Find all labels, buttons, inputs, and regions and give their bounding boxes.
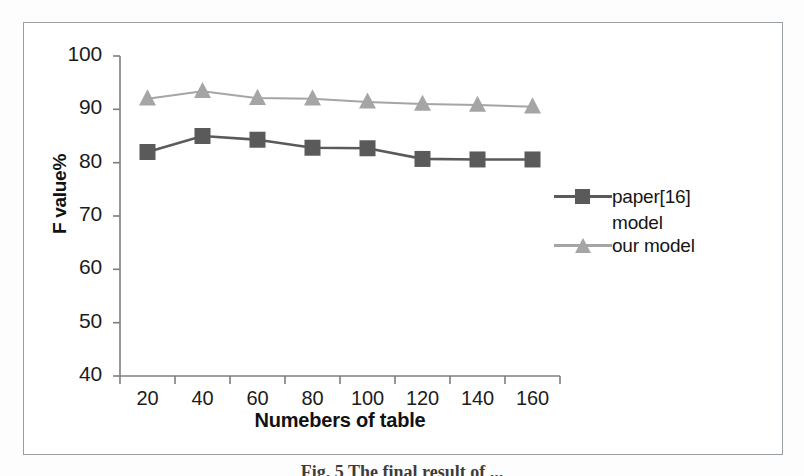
legend-label: paper[16] [612, 185, 691, 208]
data-point-marker [525, 151, 541, 167]
legend-label: our model [612, 234, 695, 257]
figure-caption: Fig. 5 The final result of ... [0, 462, 804, 476]
x-axis-tick-label: 60 [228, 387, 288, 410]
legend-swatch [554, 185, 612, 207]
y-axis-tick-label: 100 [46, 42, 102, 66]
data-point-marker [414, 95, 431, 111]
x-axis-title: Numebers of table [120, 409, 560, 432]
data-point-marker [524, 97, 541, 113]
data-point-marker [305, 140, 321, 156]
data-point-marker [140, 144, 156, 160]
y-axis-tick-label: 60 [46, 255, 102, 279]
figure-frame: F value% 4050607080901002040608010012014… [23, 22, 783, 455]
legend-square-marker-icon [575, 189, 590, 204]
legend-swatch [554, 234, 612, 256]
x-axis-tick-label: 140 [448, 387, 508, 410]
data-point-marker [470, 151, 486, 167]
x-axis-tick-label: 100 [338, 387, 398, 410]
chart-legend: paper[16]modelour model [554, 185, 769, 260]
x-axis-tick-label: 80 [283, 387, 343, 410]
y-axis-tick-label: 90 [46, 95, 102, 119]
data-point-marker [194, 82, 211, 98]
data-point-marker [195, 128, 211, 144]
data-point-marker [304, 89, 321, 105]
legend-item: our model [554, 234, 769, 258]
data-point-marker [415, 151, 431, 167]
y-axis-tick-label: 50 [46, 309, 102, 333]
x-axis-tick-label: 20 [118, 387, 178, 410]
chart-plot-area: F value% 4050607080901002040608010012014… [24, 23, 784, 456]
y-axis-title: F value% [49, 114, 71, 274]
y-axis-tick-label: 80 [46, 149, 102, 173]
legend-label-continued: model [612, 211, 769, 234]
legend-triangle-marker-icon [575, 238, 591, 253]
y-axis-tick-label: 70 [46, 202, 102, 226]
legend-item: paper[16] [554, 185, 769, 209]
x-axis-tick-label: 160 [503, 387, 563, 410]
x-axis-tick-label: 120 [393, 387, 453, 410]
data-point-marker [360, 140, 376, 156]
y-axis-tick-label: 40 [46, 362, 102, 386]
data-point-marker [250, 132, 266, 148]
figure-page: F value% 4050607080901002040608010012014… [0, 0, 804, 476]
data-point-marker [469, 96, 486, 112]
x-axis-tick-label: 40 [173, 387, 233, 410]
